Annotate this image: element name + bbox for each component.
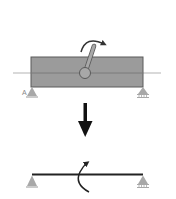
roller-support-right-icon [137,87,149,98]
down-arrow-icon [78,103,93,137]
bottom-panel [26,163,149,192]
crank-hub [80,68,91,79]
support-label-a: A [22,89,27,96]
pin-support-left-icon [26,87,38,97]
roller-support-right-bottom-icon [137,176,149,188]
top-panel: A [13,41,161,98]
counterclockwise-moment-arrow-icon [78,163,89,192]
beam-moment-diagram: A [0,0,176,199]
pin-support-left-bottom-icon [26,176,38,188]
